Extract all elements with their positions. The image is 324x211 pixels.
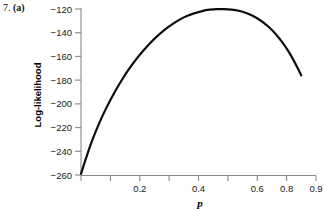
y-axis-tick-labels: −120 −140 −160 −180 −200 −220 −240 −260 (51, 4, 72, 181)
x-axis-ticks (81, 176, 316, 182)
log-likelihood-curve (81, 9, 301, 174)
log-likelihood-chart: −120 −140 −160 −180 −200 −220 −240 −260 … (0, 0, 324, 211)
figure-container: 7. (a) −120 −140 −160 −180 −200 −22 (0, 0, 324, 211)
y-axis: −120 −140 −160 −180 −200 −220 −240 −260 … (32, 4, 81, 181)
x-axis: 0.2 0.4 0.6 0.8 0.9 p (81, 176, 323, 210)
y-axis-ticks (75, 9, 81, 175)
y-tick-label: −180 (51, 75, 72, 86)
y-tick-label: −120 (51, 4, 72, 15)
y-tick-label: −220 (51, 122, 72, 133)
y-tick-label: −260 (51, 170, 72, 181)
y-tick-label: −140 (51, 27, 72, 38)
x-tick-label: 0.8 (280, 183, 293, 194)
y-tick-label: −240 (51, 146, 72, 157)
x-tick-label: 0.6 (251, 183, 264, 194)
y-axis-title: Log-likelihood (32, 62, 43, 127)
x-tick-label: 0.9 (309, 183, 322, 194)
x-axis-tick-labels: 0.2 0.4 0.6 0.8 0.9 (133, 183, 322, 194)
y-tick-label: −200 (51, 98, 72, 109)
x-tick-label: 0.2 (133, 183, 146, 194)
x-tick-label: 0.4 (192, 183, 205, 194)
y-tick-label: −160 (51, 51, 72, 62)
x-axis-title: p (196, 197, 203, 209)
